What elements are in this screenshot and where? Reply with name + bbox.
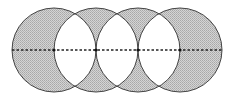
intersection-dot-2: [94, 48, 97, 51]
intersection-dot-4: [178, 48, 181, 51]
overlapping-circles-diagram: [0, 0, 230, 97]
intersection-dot-3: [136, 48, 139, 51]
intersection-dot-1: [52, 48, 55, 51]
